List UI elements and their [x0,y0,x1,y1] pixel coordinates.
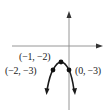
vertex-point [59,60,64,65]
right-arrow-icon [72,88,77,95]
left-point-label: (−2, −3) [5,66,36,76]
left-point [51,68,56,73]
y-axis-arrow-icon [67,11,72,18]
x-axis-arrow-icon [96,44,103,49]
y-axis [67,11,72,110]
x-axis [12,44,103,49]
coordinate-graph [0,0,112,110]
parabola-curve [45,62,78,95]
right-point [67,68,72,73]
right-point-label: (0, −3) [75,66,101,76]
vertex-label: (−1, −2) [19,52,50,62]
left-arrow-icon [45,88,50,95]
